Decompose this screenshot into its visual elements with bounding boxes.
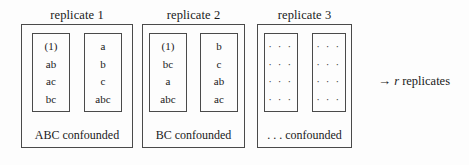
block-2-2: b c ab ac [200,33,238,112]
ellipsis-cell: · · · [268,58,293,70]
ellipsis-cell: · · · [316,40,341,52]
treatment-cell: ab [46,58,56,70]
replicate-title-1: replicate 1 [21,8,133,22]
block-3-2: · · · · · · · · · · · · [312,33,346,112]
replicate-outer-box-1: (1) ab ac bc a b c abc ABC confounded [21,24,133,148]
replicate-outer-box-2: (1) bc a abc b c ab ac BC confounded [142,24,245,148]
ellipsis-cell: · · · [268,93,293,105]
replicates-annotation: → r replicates [378,73,450,89]
treatment-cell: (1) [162,40,175,52]
treatment-cell: a [166,75,171,87]
block-row-3: · · · · · · · · · · · · · · · · · · · · … [258,33,351,112]
replicate-title-3: replicate 3 [257,8,352,22]
ellipsis-cell: · · · [316,75,341,87]
treatment-cell: c [217,58,222,70]
treatment-cell: (1) [45,40,58,52]
replicate-group-1: replicate 1 (1) ab ac bc a b c abc ABC c… [21,8,133,148]
ellipsis-cell: · · · [268,75,293,87]
replicate-outer-box-3: · · · · · · · · · · · · · · · · · · · · … [257,24,352,148]
ellipsis-cell: · · · [316,58,341,70]
treatment-cell: bc [46,93,56,105]
replicate-count-symbol: r [394,74,399,88]
treatment-cell: bc [163,58,173,70]
block-row-1: (1) ab ac bc a b c abc [22,33,132,112]
confounded-caption-3: . . . confounded [258,129,351,142]
replicates-word: replicates [402,74,450,88]
ellipsis-cell: · · · [316,93,341,105]
right-arrow-icon: → [378,73,391,88]
confounded-caption-2: BC confounded [143,129,244,142]
treatment-cell: abc [160,93,175,105]
treatment-cell: abc [95,93,110,105]
replicate-title-2: replicate 2 [142,8,245,22]
treatment-cell: ab [214,75,224,87]
replicate-group-2: replicate 2 (1) bc a abc b c ab ac BC co… [142,8,245,148]
block-2-1: (1) bc a abc [149,33,187,112]
treatment-cell: b [100,58,106,70]
replicate-group-3: replicate 3 · · · · · · · · · · · · · · … [257,8,352,148]
block-1-1: (1) ab ac bc [32,33,70,112]
treatment-cell: ac [214,93,224,105]
ellipsis-cell: · · · [268,40,293,52]
block-1-2: a b c abc [84,33,122,112]
treatment-cell: c [101,75,106,87]
treatment-cell: b [216,40,222,52]
treatment-cell: ac [46,75,56,87]
confounding-replicates-figure: replicate 1 (1) ab ac bc a b c abc ABC c… [0,0,469,165]
confounded-caption-1: ABC confounded [22,129,132,142]
block-3-1: · · · · · · · · · · · · [264,33,298,112]
block-row-2: (1) bc a abc b c ab ac [143,33,244,112]
treatment-cell: a [101,40,106,52]
